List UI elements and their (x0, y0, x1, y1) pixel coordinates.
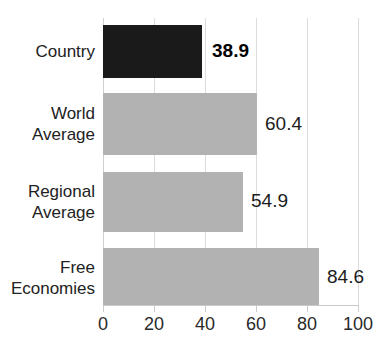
value-label-regional-average: 54.9 (251, 190, 288, 212)
x-tick-label-100: 100 (343, 313, 373, 335)
tick-mark-80 (307, 306, 308, 312)
x-tick-label-40: 40 (195, 313, 215, 335)
x-tick-label-0: 0 (98, 313, 108, 335)
chart-title-remnant (0, 0, 392, 4)
tick-mark-40 (205, 306, 206, 312)
tick-mark-0 (103, 306, 104, 312)
tick-mark-100 (358, 306, 359, 312)
category-label-free-economies: Free Economies (0, 257, 95, 299)
x-tick-label-60: 60 (246, 313, 266, 335)
value-label-country: 38.9 (212, 40, 249, 62)
bar-fill-regional-average (103, 172, 243, 232)
category-label-world-average: World Average (0, 103, 95, 145)
bar-world-average[interactable] (103, 93, 257, 155)
value-label-world-average: 60.4 (265, 113, 302, 135)
x-tick-label-20: 20 (144, 313, 164, 335)
bar-chart: Country World Average Regional Average F… (0, 0, 392, 354)
bar-fill-country (103, 25, 202, 78)
tick-mark-20 (154, 306, 155, 312)
bar-fill-world-average (103, 93, 257, 155)
bar-fill-free-economies (103, 248, 319, 305)
gridline-100 (358, 18, 359, 306)
bar-free-economies[interactable] (103, 248, 319, 305)
category-label-regional-average: Regional Average (0, 181, 95, 223)
bar-country[interactable] (103, 25, 202, 78)
category-label-country: Country (0, 41, 95, 62)
tick-mark-60 (256, 306, 257, 312)
value-label-free-economies: 84.6 (327, 266, 364, 288)
x-tick-label-80: 80 (297, 313, 317, 335)
bar-regional-average[interactable] (103, 172, 243, 232)
x-axis-line (103, 305, 359, 306)
